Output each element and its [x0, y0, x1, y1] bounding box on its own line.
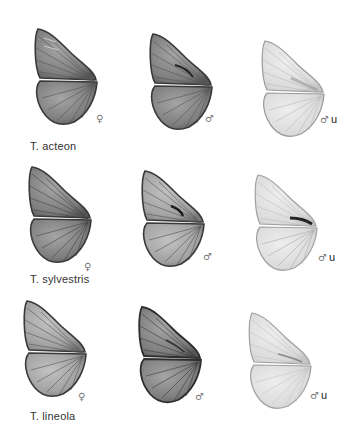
female-symbol: ♀ [78, 392, 85, 402]
wing-acteon-female [30, 26, 102, 128]
wing-lineola-female [19, 298, 91, 398]
species-label-acteon: T. acteon [30, 140, 76, 152]
species-label-sylvestris: T. sylvestris [30, 273, 89, 285]
male-underside-label: ♂u [310, 390, 327, 401]
male-symbol: ♂ [203, 252, 212, 262]
wing-acteon-male-underside [257, 38, 329, 138]
butterfly-plate: ♀ ♂ ♂u T. acteon ♀ [0, 0, 355, 445]
wing-sylvestris-male-underside [250, 172, 322, 272]
male-underside-label: ♂u [318, 252, 335, 263]
female-symbol: ♀ [96, 114, 103, 124]
wing-sylvestris-female [24, 164, 96, 264]
wing-lineola-male-underside [244, 310, 316, 410]
female-symbol: ♀ [84, 262, 91, 272]
wing-lineola-male [134, 304, 206, 404]
male-underside-label: ♂u [320, 114, 337, 125]
male-symbol: ♂ [195, 392, 204, 402]
species-label-lineola: T. lineola [30, 410, 75, 422]
male-symbol: ♂ [205, 114, 214, 124]
wing-sylvestris-male [137, 168, 209, 268]
